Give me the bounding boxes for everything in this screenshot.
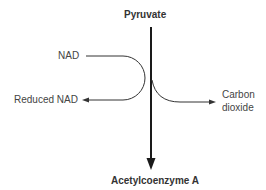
acetylcoenzyme-a-label: Acetylcoenzyme A	[111, 175, 199, 187]
reduced-nad-label: Reduced NAD	[14, 94, 78, 106]
pyruvate-label: Pyruvate	[124, 9, 166, 21]
carbon-dioxide-label-line2: dioxide	[222, 102, 254, 114]
main-pathway-arrow	[147, 27, 156, 170]
nad-label: NAD	[58, 50, 79, 62]
nad-reduction-arrow	[82, 56, 145, 103]
carbon-dioxide-release-arrow	[152, 80, 216, 105]
carbon-dioxide-label-line1: Carbon	[222, 89, 255, 101]
